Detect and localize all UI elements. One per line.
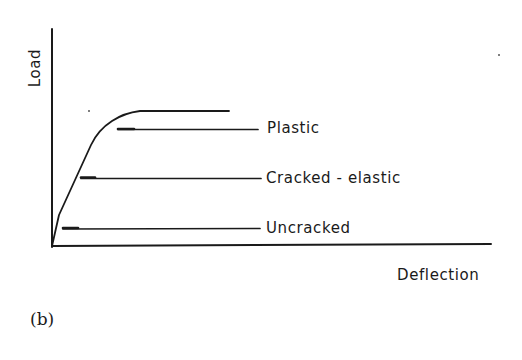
figure-caption: (b)	[30, 309, 54, 329]
uncracked-label: Uncracked	[266, 221, 351, 236]
load-deflection-diagram: Load Plastic Cracked - elastic Uncracked…	[0, 0, 522, 360]
scan-speck	[88, 110, 90, 112]
x-axis	[52, 244, 491, 246]
x-axis-label: Deflection	[397, 268, 479, 283]
uncracked-level-line	[63, 229, 260, 230]
y-axis-label: Load	[26, 46, 44, 90]
plastic-label: Plastic	[267, 121, 320, 136]
scan-speck	[498, 54, 500, 56]
y-axis-label-text: Load	[26, 49, 44, 87]
diagram-canvas	[0, 0, 522, 360]
cracked-elastic-label: Cracked - elastic	[266, 171, 401, 186]
